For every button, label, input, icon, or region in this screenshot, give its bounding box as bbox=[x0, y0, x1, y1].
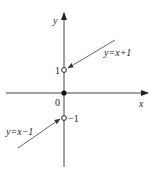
curve-label-lower: y=x−1 bbox=[5, 126, 33, 137]
origin-label: 0 bbox=[55, 97, 60, 108]
graph-canvas: y x 0 1 −1 y=x+1 y=x−1 bbox=[0, 0, 153, 179]
open-point-pos1 bbox=[62, 68, 67, 73]
tick-label-neg1: −1 bbox=[68, 113, 79, 124]
x-axis-label: x bbox=[138, 98, 144, 109]
tick-label-pos1: 1 bbox=[55, 65, 60, 76]
curve-label-upper: y=x+1 bbox=[103, 47, 131, 58]
origin-filled-point bbox=[61, 90, 66, 95]
y-axis-label: y bbox=[52, 15, 58, 26]
open-point-neg1 bbox=[62, 116, 67, 121]
